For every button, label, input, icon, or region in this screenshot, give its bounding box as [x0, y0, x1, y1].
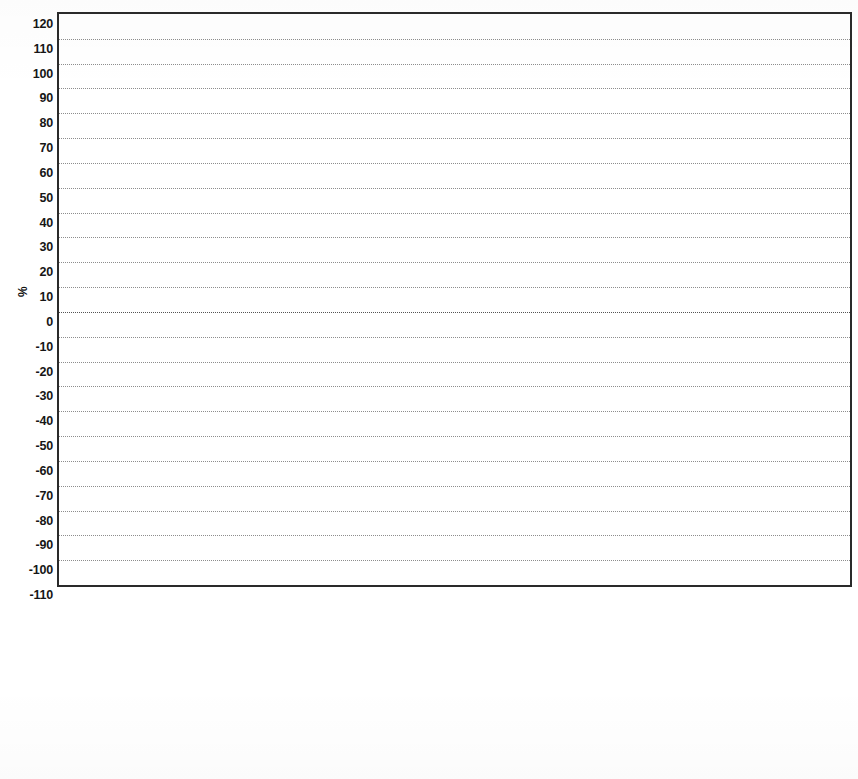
gridline-horizontal [59, 188, 850, 189]
chart-legend [0, 660, 858, 779]
y-tick-label: -40 [3, 415, 53, 428]
chart-page: % 1201101009080706050403020100-10-20-30-… [0, 0, 858, 779]
gridline-horizontal [59, 138, 850, 139]
y-tick-label: 100 [3, 68, 53, 81]
gridline-horizontal [59, 88, 850, 89]
gridline-horizontal [59, 461, 850, 462]
gridline-horizontal [59, 213, 850, 214]
x-axis-ticks [57, 587, 852, 601]
y-tick-label: 20 [3, 266, 53, 279]
y-tick-label: 10 [3, 291, 53, 304]
gridline-horizontal [59, 486, 850, 487]
plot-inner [59, 14, 850, 585]
y-tick-label: -110 [3, 589, 53, 602]
y-tick-label: 90 [3, 92, 53, 105]
y-tick-label: -90 [3, 539, 53, 552]
gridline-horizontal [59, 535, 850, 536]
y-tick-label: -80 [3, 515, 53, 528]
gridline-horizontal [59, 312, 850, 313]
y-tick-label: -20 [3, 366, 53, 379]
gridline-horizontal [59, 386, 850, 387]
y-tick-label: 50 [3, 192, 53, 205]
gridline-horizontal [59, 411, 850, 412]
gridline-horizontal [59, 362, 850, 363]
x-axis-labels [57, 601, 852, 656]
gridline-horizontal [59, 163, 850, 164]
y-tick-label: 0 [3, 316, 53, 329]
y-tick-label: -30 [3, 390, 53, 403]
y-tick-label: 80 [3, 117, 53, 130]
gridline-horizontal [59, 237, 850, 238]
y-tick-label: -10 [3, 341, 53, 354]
y-tick-label: -60 [3, 465, 53, 478]
y-tick-label: 70 [3, 142, 53, 155]
gridline-horizontal [59, 560, 850, 561]
y-tick-label: 30 [3, 241, 53, 254]
y-tick-label: -50 [3, 440, 53, 453]
y-tick-label: 40 [3, 217, 53, 230]
gridline-horizontal [59, 337, 850, 338]
y-tick-label: 120 [3, 18, 53, 31]
gridline-horizontal [59, 436, 850, 437]
y-tick-label: -100 [3, 564, 53, 577]
y-tick-label: 110 [3, 43, 53, 56]
gridline-horizontal [59, 287, 850, 288]
y-axis-labels: 1201101009080706050403020100-10-20-30-40… [0, 12, 53, 587]
y-tick-label: -70 [3, 490, 53, 503]
plot-area [57, 12, 852, 587]
gridline-horizontal [59, 64, 850, 65]
gridline-horizontal [59, 511, 850, 512]
gridline-horizontal [59, 262, 850, 263]
gridline-horizontal [59, 113, 850, 114]
gridline-horizontal [59, 39, 850, 40]
y-tick-label: 60 [3, 167, 53, 180]
